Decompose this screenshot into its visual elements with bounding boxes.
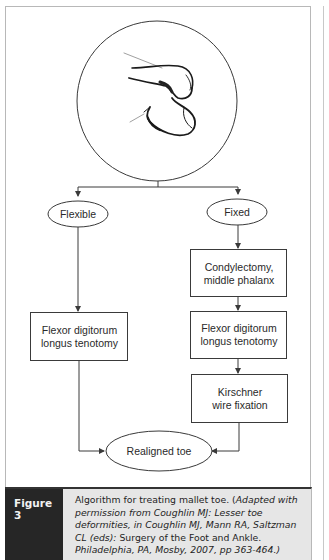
node-condylectomy-line1: Condylectomy, <box>205 261 274 274</box>
node-realigned: Realigned toe <box>106 442 212 460</box>
node-realigned-label: Realigned toe <box>127 445 192 458</box>
figure-label: Figure 3 <box>5 489 63 560</box>
node-fixed-label: Fixed <box>224 206 250 219</box>
caption-segment-3: Surgery of the Foot and Ankle. <box>116 532 261 543</box>
node-right-tenotomy: Flexor digitorum longus tenotomy <box>191 311 287 358</box>
node-left-tenotomy: Flexor digitorum longus tenotomy <box>31 313 128 361</box>
figure-caption: Figure 3 Algorithm for treating mallet t… <box>5 487 312 560</box>
node-right-tenotomy-line2: longus tenotomy <box>200 335 277 348</box>
node-condylectomy: Condylectomy, middle phalanx <box>191 250 287 297</box>
caption-segment-1: Algorithm for treating mallet toe. ( <box>75 494 236 505</box>
node-fixed: Fixed <box>207 203 267 221</box>
node-kirschner: Kirschner wire fixation <box>192 375 288 423</box>
node-kirschner-line1: Kirschner <box>218 386 262 399</box>
node-left-tenotomy-line2: longus tenotomy <box>41 337 118 350</box>
node-condylectomy-line2: middle phalanx <box>204 274 275 287</box>
caption-segment-4: Philadelphia, PA, Mosby, 2007, pp 363-46… <box>75 544 280 555</box>
node-left-tenotomy-line1: Flexor digitorum <box>42 324 117 337</box>
mallet-toe-illustration <box>77 21 237 181</box>
node-kirschner-line2: wire fixation <box>212 399 267 412</box>
node-flexible: Flexible <box>48 205 108 223</box>
caption-text: Algorithm for treating mallet toe. (Adap… <box>75 494 310 557</box>
node-right-tenotomy-line1: Flexor digitorum <box>201 322 276 335</box>
node-flexible-label: Flexible <box>60 208 96 221</box>
